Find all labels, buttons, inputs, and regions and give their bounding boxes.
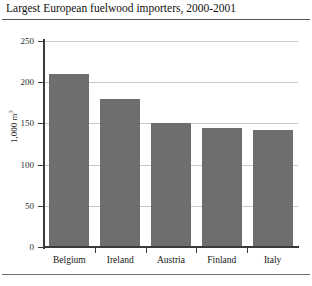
plot-area bbox=[44, 41, 298, 247]
x-axis-tick bbox=[95, 248, 96, 253]
y-axis-tick bbox=[38, 206, 44, 207]
bar bbox=[49, 74, 89, 247]
bar bbox=[253, 130, 293, 247]
y-axis-tick bbox=[38, 41, 44, 42]
x-axis-tick-label: Finland bbox=[196, 255, 247, 266]
y-axis-tick bbox=[38, 165, 44, 166]
x-axis-tick-label: Italy bbox=[247, 255, 298, 266]
y-axis-tick-label: 150 bbox=[0, 119, 34, 128]
bar-chart: 1,000 m3 050100150200250 BelgiumIrelandA… bbox=[0, 24, 312, 270]
y-axis-tick-label: 0 bbox=[0, 243, 34, 252]
y-axis-tick-label: 250 bbox=[0, 37, 34, 46]
y-axis-label-superscript: 3 bbox=[7, 110, 14, 113]
y-axis-tick bbox=[38, 247, 44, 248]
x-axis-tick bbox=[196, 248, 197, 253]
x-axis-line bbox=[43, 246, 299, 248]
bar bbox=[100, 99, 140, 247]
y-axis-line bbox=[43, 39, 45, 249]
x-axis-tick-label: Austria bbox=[146, 255, 197, 266]
bar bbox=[202, 128, 242, 247]
x-axis-tick-label: Ireland bbox=[95, 255, 146, 266]
y-axis-tick-label: 50 bbox=[0, 202, 34, 211]
footer-divider bbox=[2, 274, 310, 275]
y-axis-tick-label: 200 bbox=[0, 78, 34, 87]
y-axis-tick-label: 100 bbox=[0, 161, 34, 170]
title-divider bbox=[2, 19, 310, 20]
x-axis-tick bbox=[247, 248, 248, 253]
y-axis-tick bbox=[38, 123, 44, 124]
gridline bbox=[44, 41, 298, 42]
y-axis-tick bbox=[38, 82, 44, 83]
footer-note bbox=[6, 277, 306, 286]
bar bbox=[151, 123, 191, 247]
chart-title: Largest European fuelwood importers, 200… bbox=[6, 0, 306, 16]
x-axis-tick bbox=[146, 248, 147, 253]
x-axis-tick-label: Belgium bbox=[44, 255, 95, 266]
